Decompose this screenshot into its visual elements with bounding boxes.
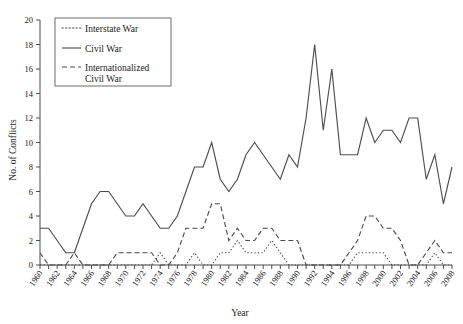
x-tick-label: 2006 (422, 268, 440, 288)
y-axis-tick-labels: 02468101214161820 (25, 15, 34, 270)
x-tick-label: 1962 (44, 268, 62, 288)
y-tick-label: 20 (25, 15, 34, 25)
x-tick-label: 1988 (267, 268, 285, 288)
x-tick-label: 1960 (27, 268, 45, 288)
x-tick-label: 1992 (301, 268, 319, 288)
legend-label-interstate-war: Interstate War (85, 24, 139, 34)
x-tick-label: 2002 (387, 268, 405, 288)
y-tick-label: 0 (29, 260, 33, 270)
x-tick-label: 1966 (78, 268, 96, 288)
x-tick-label: 1970 (113, 268, 131, 288)
legend-label-internationalized-civil-war-line2: Civil War (85, 74, 123, 84)
y-tick-label: 6 (29, 187, 33, 197)
x-axis-tick-labels: 1960196219641966196819701972197419761978… (27, 268, 457, 288)
y-tick-label: 12 (25, 113, 34, 123)
y-axis-title: No. of Conflicts (8, 119, 18, 181)
x-tick-label: 1964 (61, 268, 79, 288)
x-axis-title: Year (231, 308, 249, 318)
series-line-internationalized-civil-war (40, 204, 452, 265)
chart-legend: Interstate War Civil War Internationaliz… (55, 18, 171, 86)
y-axis-ticks (36, 20, 40, 265)
x-tick-label: 1986 (250, 268, 268, 288)
x-tick-label: 1994 (319, 268, 337, 288)
x-tick-label: 1974 (147, 268, 165, 288)
y-tick-label: 18 (25, 40, 34, 50)
x-tick-label: 2000 (370, 268, 388, 288)
x-tick-label: 1978 (181, 268, 199, 288)
chart-canvas: 02468101214161820 1960196219641966196819… (0, 0, 463, 324)
y-tick-label: 2 (29, 236, 33, 246)
x-tick-label: 1968 (95, 268, 113, 288)
y-tick-label: 10 (25, 138, 34, 148)
y-tick-label: 4 (29, 211, 34, 221)
y-tick-label: 8 (29, 162, 33, 172)
x-tick-label: 1990 (284, 268, 302, 288)
x-tick-label: 1972 (130, 268, 148, 288)
y-tick-label: 14 (25, 89, 34, 99)
x-tick-label: 1976 (164, 268, 182, 288)
legend-label-internationalized-civil-war: Internationalized (85, 63, 150, 73)
conflicts-line-chart: 02468101214161820 1960196219641966196819… (0, 0, 463, 324)
x-tick-label: 1984 (233, 268, 251, 288)
series-line-interstate-war (40, 241, 452, 266)
x-tick-label: 1996 (336, 268, 354, 288)
x-axis-ticks (40, 265, 452, 269)
x-tick-label: 2008 (439, 268, 457, 288)
x-tick-label: 1982 (216, 268, 234, 288)
x-tick-label: 1980 (198, 268, 216, 288)
x-tick-label: 1998 (353, 268, 371, 288)
y-tick-label: 16 (25, 64, 34, 74)
legend-label-civil-war: Civil War (85, 44, 123, 54)
x-tick-label: 2004 (404, 268, 422, 288)
